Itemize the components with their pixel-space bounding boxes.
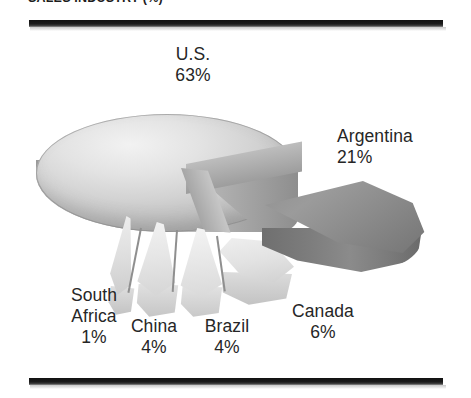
label-us-name: U.S. <box>143 44 243 65</box>
label-argentina-name: Argentina <box>337 126 457 147</box>
label-south-africa-name-1: South <box>48 285 140 306</box>
label-argentina: Argentina 21% <box>337 126 457 168</box>
label-brazil-value: 4% <box>190 337 264 358</box>
label-china-value: 4% <box>118 337 190 358</box>
bottom-divider-rule <box>29 378 443 385</box>
label-china: China 4% <box>118 316 190 358</box>
label-us-value: 63% <box>143 65 243 86</box>
label-argentina-value: 21% <box>337 147 457 168</box>
label-canada-value: 6% <box>275 322 371 343</box>
label-china-name: China <box>118 316 190 337</box>
pie-chart-figure: SALES INDUSTRY (%) U.S. 63% Arg <box>0 0 471 398</box>
label-canada-name: Canada <box>275 301 371 322</box>
label-brazil: Brazil 4% <box>190 316 264 358</box>
label-brazil-name: Brazil <box>190 316 264 337</box>
label-us: U.S. 63% <box>143 44 243 86</box>
label-canada: Canada 6% <box>275 301 371 343</box>
